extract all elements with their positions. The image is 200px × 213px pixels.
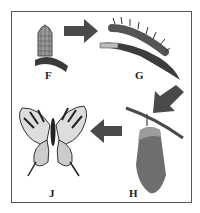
chrysalis-icon xyxy=(126,108,183,193)
stage-label-j: J xyxy=(49,187,55,199)
egg-icon xyxy=(35,24,68,72)
arrow-left-icon xyxy=(90,119,122,143)
stage-label-f: F xyxy=(45,69,52,81)
arrow-down-left-icon xyxy=(153,85,184,113)
stage-label-h: H xyxy=(129,187,138,199)
butterfly-icon xyxy=(19,106,86,176)
life-cycle-illustration xyxy=(0,0,200,213)
arrow-right-icon xyxy=(64,19,98,43)
stage-label-g: G xyxy=(135,69,144,81)
